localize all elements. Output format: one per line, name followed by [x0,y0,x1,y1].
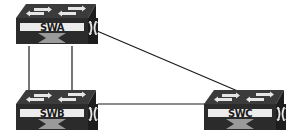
switch-label-swb: SWB [40,108,64,119]
switch-swc[interactable]: SWC [204,90,286,130]
switch-swb[interactable]: SWB [16,90,98,130]
switch-label-swa: SWA [40,22,65,33]
network-diagram: SWA SWB SWC [0,0,296,136]
link-swa-swc[interactable] [97,31,240,92]
switch-label-swc: SWC [228,108,252,119]
switch-swa[interactable]: SWA [16,4,98,44]
